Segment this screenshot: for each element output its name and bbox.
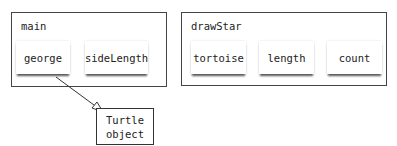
object-kind-label: object [106, 127, 144, 141]
turtle-object: Turtle object [96, 108, 154, 145]
object-type-label: Turtle [106, 113, 144, 127]
reference-arrow [0, 0, 397, 146]
